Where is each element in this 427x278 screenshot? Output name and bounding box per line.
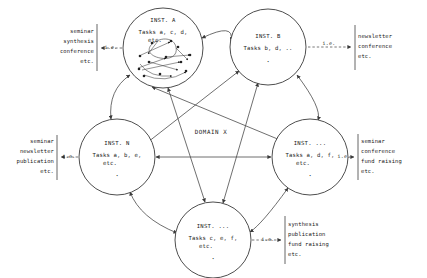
node-inst-n-tasks: Tasks a, b, e,: [92, 152, 141, 158]
output-text-top-left: seminar synthesis conference etc.: [60, 28, 95, 64]
node-inst-b-tasks: Tasks b, d, ..: [243, 45, 292, 51]
micro-node-10: [185, 70, 188, 73]
diagram-canvas: INST. A Tasks a, c, d, etc. INST. B Task…: [0, 0, 427, 278]
micro-node-3: [170, 40, 173, 43]
node-inst-n-tasks-cont: etc.: [103, 160, 117, 166]
micro-node-8: [138, 68, 141, 71]
ie-label-bottom-right: i.e.: [262, 236, 275, 242]
ie-label-mid-right: i.e.: [338, 153, 351, 159]
domain-x-label: DOMAIN X: [195, 129, 228, 135]
edge-inst-n-inst-a: [111, 75, 130, 119]
output-top-right-line-0: newsletter: [358, 33, 393, 39]
node-inst-right-title: INST. ...: [294, 140, 327, 146]
node-inst-n-title: INST. N: [104, 140, 129, 146]
output-mid-left-line-1: newsletter: [20, 148, 55, 154]
ie-label-top-right: i.e.: [323, 40, 336, 46]
micro-node-12: [143, 75, 146, 78]
output-text-mid-left: seminar newsletter publication etc.: [16, 138, 54, 174]
edge-inst-b-inst-bottom: [223, 83, 258, 203]
micro-node-5: [189, 54, 192, 57]
node-inst-right-dots: ·: [308, 172, 312, 180]
output-top-right-line-2: etc.: [358, 53, 372, 59]
micro-node-7: [148, 61, 151, 64]
node-inst-n-dots: ·: [115, 172, 119, 180]
node-inst-right-tasks-cont: etc.: [296, 160, 310, 166]
micro-node-1: [139, 55, 142, 58]
node-inst-right-tasks: Tasks a, d, f,: [285, 152, 334, 158]
micro-node-11: [159, 73, 162, 76]
output-mid-right-line-0: seminar: [361, 138, 385, 144]
micro-node-4: [177, 46, 180, 49]
output-mid-right-line-2: fund raising: [361, 158, 402, 165]
node-inst-a-tasks-cont: etc.: [148, 37, 162, 43]
output-mid-left-line-2: publication: [16, 158, 54, 165]
output-top-left-line-0: seminar: [70, 28, 94, 34]
output-mid-right-line-1: conference: [361, 148, 395, 154]
edge-inst-bottom-inst-n: [130, 192, 177, 233]
node-inst-bottom-dots: ·: [211, 255, 215, 263]
output-bottom-right-line-1: publication: [288, 231, 326, 238]
output-text-mid-right: seminar conference fund raising etc.: [361, 138, 402, 174]
output-bottom-right-line-3: etc.: [288, 251, 302, 257]
ie-label-mid-left: i.e.: [63, 153, 76, 159]
output-bottom-right-line-2: fund raising: [288, 241, 329, 248]
node-inst-b-title: INST. B: [255, 33, 281, 39]
network-diagram-svg: INST. A Tasks a, c, d, etc. INST. B Task…: [0, 0, 427, 278]
output-mid-left-line-3: etc.: [40, 168, 54, 174]
output-bottom-right-line-0: synthesis: [288, 221, 319, 228]
ie-label-top-left: i.e.: [105, 44, 118, 50]
node-inst-bottom-tasks: Tasks c, e, f,: [188, 235, 237, 241]
output-top-left-line-2: conference: [60, 48, 94, 54]
output-text-bottom-right: synthesis publication fund raising etc.: [288, 221, 329, 257]
output-top-left-line-3: etc.: [80, 58, 94, 64]
micro-node-9: [180, 61, 183, 64]
node-inst-b-dots: ·: [266, 58, 270, 66]
edge-inst-a-inst-b: [202, 31, 231, 41]
output-text-top-right: newsletter conference etc.: [358, 33, 393, 59]
output-top-left-line-1: synthesis: [63, 38, 94, 45]
edge-inst-right-inst-bottom: [250, 188, 288, 232]
node-inst-a-tasks: Tasks a, c, d,: [138, 29, 187, 35]
chord-edges: [148, 71, 280, 203]
node-inst-bottom-title: INST. ...: [197, 223, 230, 229]
node-inst-a-title: INST. A: [150, 17, 176, 23]
edge-inst-b-inst-right: [297, 75, 319, 120]
node-inst-bottom-tasks-cont: etc.: [199, 243, 213, 249]
output-top-right-line-1: conference: [358, 43, 392, 49]
output-mid-right-line-3: etc.: [361, 168, 375, 174]
output-mid-left-line-0: seminar: [30, 138, 54, 144]
edge-inst-a-inst-bottom: [168, 88, 205, 202]
micro-node-6: [165, 56, 168, 59]
